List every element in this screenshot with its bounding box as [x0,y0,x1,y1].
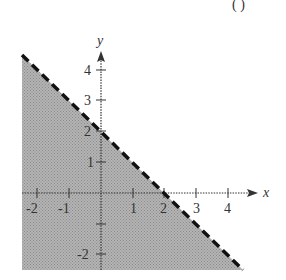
svg-text:1: 1 [130,201,137,216]
svg-text:2: 2 [84,124,91,139]
svg-text:4: 4 [84,63,91,78]
svg-text:4: 4 [224,201,231,216]
x-axis-arrow-icon [247,189,258,197]
svg-text:-2: -2 [26,201,38,216]
y-axis-arrow-icon [97,51,105,62]
svg-text:-2: -2 [77,247,89,262]
svg-text:-1: -1 [58,201,70,216]
inequality-graph: ( ) x y -2 -1 1 2 3 4 4 [0,0,286,280]
svg-text:1: 1 [87,155,94,170]
header-fragment: ( ) [232,0,245,13]
svg-text:2: 2 [160,201,167,216]
x-axis-label: x [262,185,270,200]
svg-text:3: 3 [193,201,200,216]
y-axis-label: y [95,33,104,48]
svg-text:3: 3 [84,93,91,108]
